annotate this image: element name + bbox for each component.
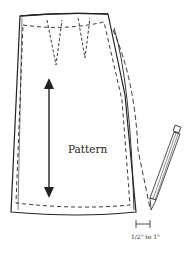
extended-side-line (113, 30, 150, 208)
arrow-head-up (44, 78, 54, 89)
pattern-label: Pattern (68, 143, 108, 155)
seam-allowance-line (16, 22, 130, 207)
arrow-head-down (44, 187, 54, 198)
pencil-icon (150, 125, 181, 210)
measurement-label: 1/2" to 1" (131, 233, 160, 240)
skirt-pattern-diagram: Pattern 1/2" to 1" (0, 0, 195, 275)
added-width-indicator (136, 220, 150, 228)
dart-left (47, 20, 62, 65)
dart-right (78, 18, 90, 58)
pattern-outline (11, 13, 136, 215)
waistline (20, 13, 108, 16)
